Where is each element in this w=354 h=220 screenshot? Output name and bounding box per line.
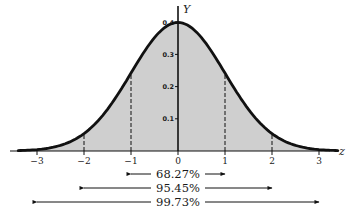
y-tick-label: 0.2: [162, 83, 174, 91]
annotation-label: 99.73%: [156, 195, 200, 209]
x-tick-label: 0: [175, 156, 181, 166]
y-axis-label: Y: [183, 3, 192, 16]
y-tick-label: 0.3: [162, 51, 174, 59]
x-axis-ticks: −3−2−10123: [30, 151, 322, 166]
x-tick-label: −2: [77, 156, 90, 166]
annotation-label: 95.45%: [156, 181, 200, 195]
x-tick-label: 3: [316, 156, 322, 166]
normal-distribution-chart: Y 0.10.20.30.4 z −3−2−10123 68.27%95.45%…: [0, 0, 354, 220]
x-axis-label: z: [338, 145, 345, 158]
x-tick-label: 1: [222, 156, 228, 166]
x-tick-label: −3: [30, 156, 44, 166]
percentage-annotations: 68.27%95.45%99.73%: [37, 167, 319, 209]
annotation-label: 68.27%: [156, 167, 200, 181]
x-tick-label: −1: [124, 156, 137, 166]
x-tick-label: 2: [269, 156, 275, 166]
y-tick-label: 0.1: [162, 115, 174, 123]
